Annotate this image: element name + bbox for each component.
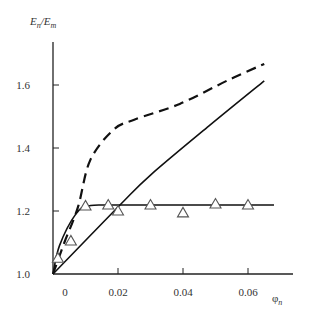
triangle-marker	[52, 253, 63, 263]
y-tick-label: 1.6	[16, 79, 30, 91]
y-tick-label: 1.4	[16, 142, 30, 154]
triangle-marker	[178, 207, 189, 217]
series-layer	[53, 64, 274, 274]
triangle-marker	[210, 199, 221, 209]
x-axis-label: φn	[272, 292, 282, 307]
markers-layer	[52, 199, 253, 263]
x-tick-label: 0.02	[108, 286, 127, 298]
x-tick-label: 0.04	[173, 286, 193, 298]
x-tick-label: 0	[62, 286, 68, 298]
y-axis-label: En/Em	[29, 15, 57, 30]
x-tick-label: 0.06	[238, 286, 258, 298]
chart: 00.020.040.061.01.21.41.6 En/Em φn	[0, 0, 309, 317]
y-tick-label: 1.0	[16, 268, 30, 280]
y-tick-label: 1.2	[16, 205, 30, 217]
